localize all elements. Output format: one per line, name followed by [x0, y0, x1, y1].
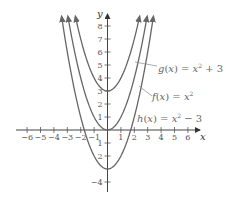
- g-label: g(x) = x2 + 3: [158, 62, 223, 74]
- x-axis-label: x: [200, 131, 206, 142]
- y-tick-label: 1: [97, 139, 102, 148]
- y-tick-label: 1: [97, 113, 102, 122]
- h-label: h(x) = x2 − 3: [137, 112, 202, 124]
- y-tick-label: 7: [97, 35, 102, 44]
- axes: [16, 14, 200, 192]
- x-tick-label: −4: [48, 133, 60, 142]
- y-tick-label: 2: [97, 152, 102, 161]
- x-tick-label: 2: [132, 133, 137, 142]
- y-tick-label: −4: [91, 178, 103, 187]
- x-tick-label: −6: [21, 133, 33, 142]
- y-tick-label: 4: [97, 74, 102, 83]
- x-tick-label: −3: [61, 133, 73, 142]
- f-label: f(x) = x2: [151, 90, 194, 102]
- y-tick-label: 6: [97, 48, 102, 57]
- y-tick-label: 5: [97, 61, 102, 70]
- x-tick-label: −5: [35, 133, 47, 142]
- y-tick-label: 2: [97, 100, 102, 109]
- parabola-chart: −6−5−4−3−2−1123456 −42112345678 x y g(x)…: [0, 0, 230, 198]
- x-tick-label: −2: [75, 133, 87, 142]
- y-axis-label: y: [96, 8, 103, 19]
- x-tick-label: 4: [159, 133, 164, 142]
- x-tick-label: 3: [145, 133, 150, 142]
- x-tick-label: 6: [185, 133, 190, 142]
- y-tick-label: 8: [97, 22, 102, 31]
- x-tick-label: 1: [118, 133, 123, 142]
- x-tick-label: 5: [172, 133, 177, 142]
